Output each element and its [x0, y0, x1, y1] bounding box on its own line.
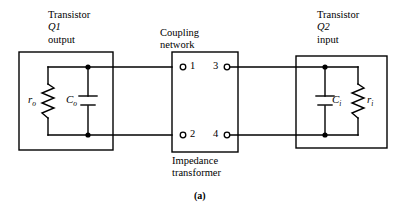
terminal-1-label: 1	[190, 60, 195, 72]
impedance-label-line1: Impedance	[172, 155, 218, 166]
q2-bottom-junction-dot	[322, 132, 327, 137]
terminal-2-circle	[180, 132, 186, 138]
figure-caption: (a)	[194, 190, 206, 201]
q2-block-label: TransistorQ2input	[317, 9, 359, 46]
terminal-1-circle	[180, 64, 186, 70]
resistor-ri-label: ri	[367, 93, 373, 106]
coupling-network-label: Couplingnetwork	[160, 27, 199, 52]
coupling-label-line1: Coupling	[160, 27, 199, 38]
terminal-3-circle	[224, 64, 230, 70]
q1-top-junction-dot	[85, 64, 90, 69]
terminal-3-label: 3	[213, 60, 218, 72]
co-subscript: o	[73, 99, 77, 108]
ro-subscript: o	[32, 99, 36, 108]
resistor-ro-label: ro	[28, 93, 36, 106]
terminal-4-circle	[224, 132, 230, 138]
terminal-2-label: 2	[190, 128, 195, 140]
impedance-transformer-label: Impedancetransformer	[172, 155, 221, 180]
capacitor-ci-label: Ci	[332, 93, 341, 106]
q2-top-junction-dot	[322, 64, 327, 69]
q1-label-line3: output	[48, 34, 75, 45]
q2-label-line3: input	[317, 34, 339, 45]
figure-container: TransistorQ1output Couplingnetwork Trans…	[0, 0, 405, 215]
impedance-label-line2: transformer	[172, 167, 221, 178]
q2-label-line2: Q2	[317, 21, 330, 32]
capacitor-co-label: Co	[66, 93, 77, 106]
q2-label-line1: Transistor	[317, 9, 359, 20]
q1-bottom-junction-dot	[85, 132, 90, 137]
q1-label-line2: Q1	[48, 21, 61, 32]
q1-block-label: TransistorQ1output	[48, 9, 90, 46]
q1-label-line1: Transistor	[48, 9, 90, 20]
terminal-4-label: 4	[213, 128, 218, 140]
resistor-ro	[42, 84, 54, 118]
resistor-ri	[352, 84, 364, 118]
coupling-label-line2: network	[160, 39, 194, 50]
